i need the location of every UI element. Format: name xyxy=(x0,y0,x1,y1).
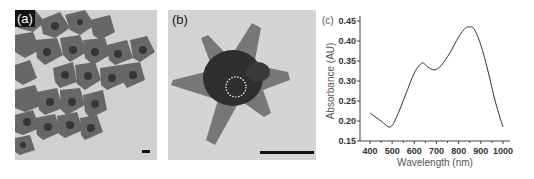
tem-image-a: (a) xyxy=(15,10,157,160)
tem-image-b: (b) xyxy=(168,10,316,160)
absorbance-chart: 0.150.200.250.300.350.400.45400500600700… xyxy=(320,0,534,179)
x-axis-label: Wavelength (nm) xyxy=(397,157,473,168)
x-tick-label: 700 xyxy=(429,146,444,156)
y-tick-label: 0.15 xyxy=(338,136,356,146)
y-tick-label: 0.25 xyxy=(338,96,356,106)
x-tick-label: 500 xyxy=(385,146,400,156)
y-tick-label: 0.40 xyxy=(338,36,356,46)
x-tick-label: 900 xyxy=(473,146,488,156)
y-tick-label: 0.45 xyxy=(338,16,356,26)
x-tick-label: 400 xyxy=(362,146,377,156)
chart-svg: 0.150.200.250.300.350.400.45400500600700… xyxy=(320,0,534,179)
scale-bar-a xyxy=(142,150,150,153)
panel-label-c: (c) xyxy=(322,15,334,26)
absorbance-line xyxy=(370,27,503,127)
y-axis-label: Absorbance (AU) xyxy=(325,43,336,120)
nanostar-cluster-image xyxy=(15,10,157,160)
scale-bar-b xyxy=(260,151,314,154)
single-nanostar-image xyxy=(168,10,316,160)
x-tick-label: 800 xyxy=(451,146,466,156)
y-tick-label: 0.35 xyxy=(338,56,356,66)
panel-label-b: (b) xyxy=(172,12,188,27)
panel-label-a: (a) xyxy=(15,10,35,27)
x-tick-label: 600 xyxy=(407,146,422,156)
x-tick-label: 1000 xyxy=(493,146,513,156)
y-tick-label: 0.20 xyxy=(338,116,356,126)
y-tick-label: 0.30 xyxy=(338,76,356,86)
